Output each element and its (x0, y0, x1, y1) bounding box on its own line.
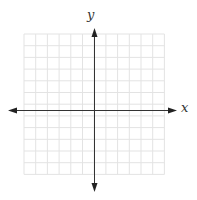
x-axis-label: x (181, 101, 188, 114)
arrow-up-icon (92, 28, 98, 37)
y-axis-label: y (87, 8, 94, 21)
arrow-down-icon (92, 183, 98, 192)
arrow-left-icon (8, 108, 17, 114)
axes (8, 28, 177, 192)
coordinate-plane (0, 0, 197, 200)
arrow-right-icon (168, 108, 177, 114)
